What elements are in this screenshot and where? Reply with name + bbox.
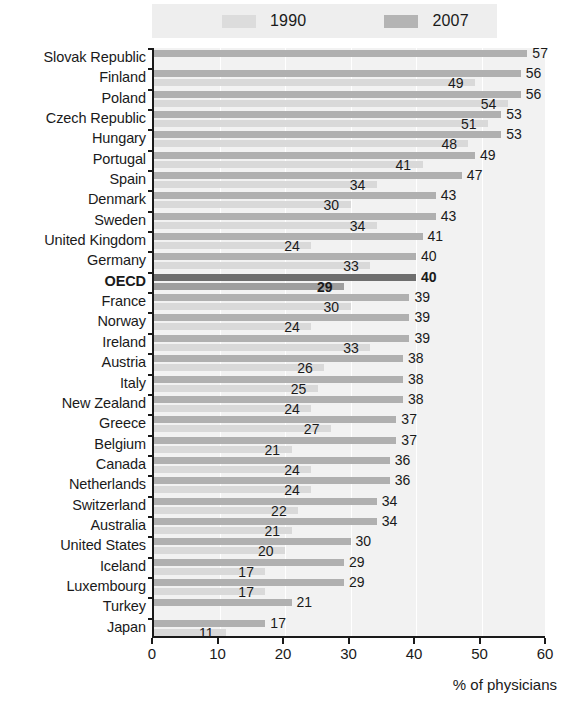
legend-swatch-2007-icon	[384, 15, 418, 28]
bar-value-2007: 29	[349, 554, 365, 570]
bar-value-2007: 53	[506, 106, 522, 122]
legend-item-1990: 1990	[222, 12, 306, 30]
bar-value-2007: 56	[526, 86, 542, 102]
chart-row: 3624	[154, 475, 545, 496]
category-label: Japan	[0, 619, 146, 635]
value-axis-tick-label: 30	[340, 645, 357, 662]
category-label: Italy	[0, 375, 146, 391]
chart-row: 3924	[154, 312, 545, 333]
category-label: Switzerland	[0, 497, 146, 513]
bar-value-2007: 36	[395, 472, 411, 488]
category-label: New Zealand	[0, 395, 146, 411]
bar-value-2007: 36	[395, 452, 411, 468]
bar-1990	[154, 283, 344, 290]
chart-row: 4029	[154, 272, 545, 293]
bar-1990	[154, 100, 508, 107]
chart-row: 5351	[154, 109, 545, 130]
category-label: Iceland	[0, 558, 146, 574]
bar-value-2007: 38	[408, 371, 424, 387]
chart-row: 4334	[154, 211, 545, 232]
bar-value-2007: 43	[441, 208, 457, 224]
bar-2007	[154, 111, 501, 118]
chart-row: 4734	[154, 170, 545, 191]
bar-value-2007: 43	[441, 187, 457, 203]
bar-2007	[154, 314, 409, 321]
chart-row: 3421	[154, 516, 545, 537]
bar-1990	[154, 303, 351, 310]
bar-value-2007: 39	[414, 309, 430, 325]
chart-row: 3826	[154, 353, 545, 374]
bar-1990	[154, 161, 423, 168]
chart-row: 2917	[154, 577, 545, 598]
value-axis-tick-label: 20	[275, 645, 292, 662]
bar-value-2007: 39	[414, 289, 430, 305]
category-label: Belgium	[0, 436, 146, 452]
value-axis-tick	[282, 638, 284, 644]
bar-2007	[154, 599, 292, 606]
bar-1990	[154, 120, 488, 127]
bar-1990	[154, 222, 377, 229]
chart-row: 3727	[154, 414, 545, 435]
bar-value-2007: 47	[467, 167, 483, 183]
chart-row: 21	[154, 597, 545, 618]
chart-row: 5654	[154, 89, 545, 110]
bar-2007	[154, 294, 409, 301]
bar-2007	[154, 253, 416, 260]
bar-value-2007: 49	[480, 147, 496, 163]
bar-value-2007: 17	[270, 615, 286, 631]
category-label: Denmark	[0, 191, 146, 207]
legend-label-2007: 2007	[432, 12, 468, 30]
category-label: United Kingdom	[0, 232, 146, 248]
category-label: Netherlands	[0, 476, 146, 492]
category-label: Portugal	[0, 151, 146, 167]
bar-value-2007: 38	[408, 350, 424, 366]
chart-row: 3825	[154, 374, 545, 395]
bar-2007	[154, 172, 462, 179]
bar-2007	[154, 70, 521, 77]
bar-1990	[154, 181, 377, 188]
category-label: Slovak Republic	[0, 49, 146, 65]
category-label: Austria	[0, 354, 146, 370]
chart-row: 1711	[154, 618, 545, 639]
category-label: Luxembourg	[0, 578, 146, 594]
bar-1990	[154, 262, 370, 269]
bar-value-2007: 38	[408, 391, 424, 407]
bar-2007	[154, 213, 436, 220]
bar-2007	[154, 50, 527, 57]
legend-item-2007: 2007	[384, 12, 468, 30]
chart-row: 3824	[154, 394, 545, 415]
bar-value-2007: 29	[349, 574, 365, 590]
category-label: Sweden	[0, 212, 146, 228]
bar-2007	[154, 274, 416, 281]
category-label: Poland	[0, 90, 146, 106]
value-axis-tick	[151, 638, 153, 644]
bar-2007	[154, 498, 377, 505]
chart-plot-area: 5756495654535153484941473443304334412440…	[152, 48, 545, 638]
chart-row: 3624	[154, 455, 545, 476]
value-axis-tick-label: 40	[406, 645, 423, 662]
bar-2007	[154, 152, 475, 159]
bar-value-2007: 37	[401, 432, 417, 448]
bar-2007	[154, 376, 403, 383]
chart-bars: 5756495654535153484941473443304334412440…	[154, 48, 545, 636]
category-label: Czech Republic	[0, 110, 146, 126]
bar-2007	[154, 477, 390, 484]
bar-2007	[154, 416, 396, 423]
category-label: Finland	[0, 69, 146, 85]
bar-value-2007: 40	[421, 248, 437, 264]
bar-2007	[154, 457, 390, 464]
chart-row: 3930	[154, 292, 545, 313]
chart-row: 4033	[154, 251, 545, 272]
bar-value-2007: 21	[297, 594, 313, 610]
category-label: Turkey	[0, 598, 146, 614]
chart-legend: 1990 2007	[152, 4, 497, 38]
chart-row: 3422	[154, 496, 545, 517]
category-label: Greece	[0, 415, 146, 431]
chart-row: 3933	[154, 333, 545, 354]
chart-row: 4124	[154, 231, 545, 252]
bar-value-2007: 37	[401, 411, 417, 427]
value-axis-tick	[479, 638, 481, 644]
category-label: Germany	[0, 252, 146, 268]
value-axis: 0102030405060	[152, 638, 545, 664]
chart-row: 5649	[154, 68, 545, 89]
